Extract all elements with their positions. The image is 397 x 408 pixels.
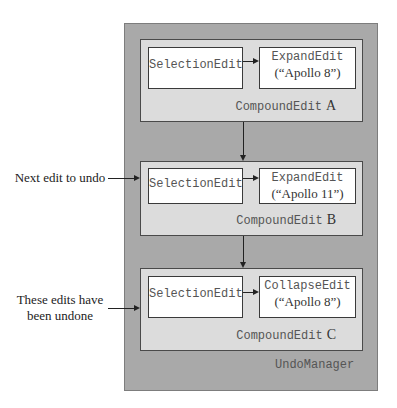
expand-edit-a: ExpandEdit (“Apollo 8”) [259, 47, 356, 89]
next-edit-pointer [108, 178, 135, 179]
selection-edit-b: SelectionEdit [148, 168, 243, 204]
expand-edit-b: ExpandEdit (“Apollo 11”) [259, 168, 356, 204]
arrow-right-icon [253, 58, 259, 64]
arrow-right-icon [134, 175, 140, 181]
arrow-right-icon [253, 289, 259, 295]
arrow-right-icon [253, 175, 259, 181]
undo-manager-label: UndoManager [275, 358, 354, 372]
collapse-edit-c: CollapseEdit (“Apollo 8”) [259, 276, 356, 318]
connector-a-b [243, 122, 244, 156]
compound-edit-c-label: CompoundEdit C [236, 325, 336, 343]
arrow-right-icon [134, 305, 140, 311]
compound-edit-b-label: CompoundEdit B [236, 210, 336, 228]
selection-edit-a: SelectionEdit [148, 47, 243, 89]
compound-edit-a-label: CompoundEdit A [235, 96, 336, 114]
undone-edits-label: These edits have been undone [10, 292, 110, 324]
undone-edits-pointer [108, 308, 135, 309]
next-edit-label: Next edit to undo [10, 170, 110, 186]
selection-edit-c: SelectionEdit [148, 276, 243, 318]
connector-b-c [243, 236, 244, 263]
